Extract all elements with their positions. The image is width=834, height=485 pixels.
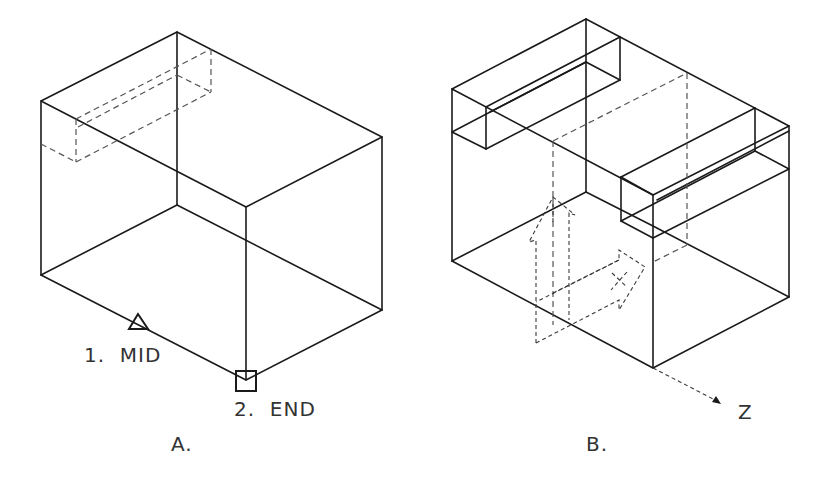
label-end: 2. END xyxy=(234,399,316,419)
ucs-icon xyxy=(529,197,645,343)
figure-b-drawing xyxy=(0,0,834,485)
caption-b: B. xyxy=(586,434,608,454)
caption-a: A. xyxy=(171,434,193,454)
diagram-stage: 1. MID 2. END A. Z B. xyxy=(0,0,834,485)
z-axis-line xyxy=(653,368,717,401)
label-z-axis: Z xyxy=(738,402,753,422)
label-mid: 1. MID xyxy=(84,345,161,365)
figure-b-box-edges xyxy=(452,19,789,368)
z-axis-arrowhead-icon xyxy=(712,396,721,404)
